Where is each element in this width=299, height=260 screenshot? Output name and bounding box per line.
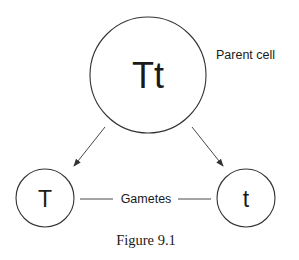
gamete-right: t (217, 169, 275, 227)
arrow-to-right-gamete (192, 127, 223, 166)
meiosis-diagram: Tt Parent cell T t Gametes Figure 9.1 (0, 0, 299, 260)
gametes-label: Gametes (121, 192, 172, 206)
gamete-left: T (16, 169, 74, 227)
gamete-right-allele: t (243, 186, 250, 212)
gamete-left-allele: T (38, 186, 52, 212)
parent-cell: Tt (90, 17, 206, 133)
figure-caption: Figure 9.1 (116, 232, 176, 248)
parent-genotype: Tt (132, 55, 164, 96)
parent-cell-label: Parent cell (216, 48, 275, 62)
arrow-to-left-gamete (74, 127, 105, 166)
